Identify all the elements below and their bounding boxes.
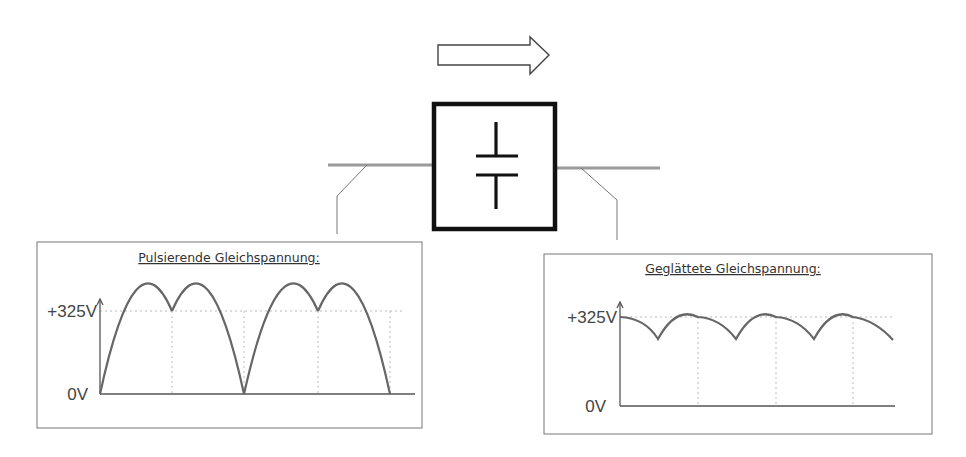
- left-leader-line: [337, 165, 367, 234]
- capacitor-block: [434, 104, 555, 229]
- smoothed-dc-chart: Geglättete Gleichspannung: +325V 0V: [544, 254, 932, 434]
- y-zero-label: 0V: [585, 397, 606, 416]
- y-max-label: +325V: [47, 302, 97, 321]
- y-max-label: +325V: [567, 308, 617, 327]
- right-arrow-icon: [438, 37, 549, 74]
- pulsating-dc-chart: Pulsierende Gleichspannung: +325V 0V: [37, 242, 422, 428]
- y-zero-label: 0V: [67, 385, 88, 404]
- right-leader-line: [581, 168, 617, 240]
- chart-title: Pulsierende Gleichspannung:: [138, 250, 320, 265]
- capacitor-smoothing-diagram: Pulsierende Gleichspannung: +325V 0V Geg…: [0, 0, 966, 457]
- chart-title: Geglättete Gleichspannung:: [645, 261, 821, 276]
